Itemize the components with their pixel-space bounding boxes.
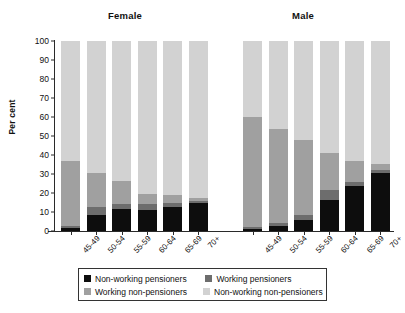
legend-swatch-icon xyxy=(84,275,91,282)
bar-male-50-54 xyxy=(269,41,288,231)
bar-segment xyxy=(87,215,106,231)
x-tick-label: 55-59 xyxy=(131,234,152,255)
bar-male-55-59 xyxy=(294,41,313,231)
bar-segment xyxy=(294,41,313,140)
bar-segment xyxy=(294,220,313,231)
bar-female-70+ xyxy=(189,41,208,231)
bar-female-50-54 xyxy=(87,41,106,231)
x-tick-label: 65-69 xyxy=(182,234,203,255)
bar-segment xyxy=(320,41,339,153)
y-tick-mark xyxy=(51,212,55,213)
bar-male-60-64 xyxy=(320,41,339,231)
y-tick-mark xyxy=(51,98,55,99)
bar-segment xyxy=(138,210,157,231)
y-tick-mark xyxy=(51,174,55,175)
bar-segment xyxy=(112,181,131,205)
y-axis-label: Per cent xyxy=(7,82,17,152)
chart-legend: Non-working pensioners Working pensioner… xyxy=(78,268,327,301)
x-tick-label: 70+ xyxy=(388,234,404,250)
bar-segment xyxy=(87,207,106,215)
legend-item-working-non-pensioners: Working non-pensioners xyxy=(84,287,203,297)
legend-item-non-working-non-pensioners: Non-working non-pensioners xyxy=(203,287,321,297)
legend-label: Non-working pensioners xyxy=(95,274,187,284)
x-tick-label: 55-59 xyxy=(313,234,334,255)
bar-male-45-49 xyxy=(243,41,262,231)
x-tick-mark xyxy=(355,231,356,235)
legend-swatch-icon xyxy=(205,275,212,282)
stacked-bar-chart: Female Male Per cent 0102030405060708090… xyxy=(0,0,405,313)
bar-segment xyxy=(371,41,390,164)
panel-title-female: Female xyxy=(95,10,155,21)
bar-segment xyxy=(269,41,288,129)
y-tick-mark xyxy=(51,231,55,232)
x-tick-mark xyxy=(122,231,123,235)
x-tick-label: 50-54 xyxy=(106,234,127,255)
y-tick-mark xyxy=(51,136,55,137)
bar-female-65-69 xyxy=(163,41,182,231)
bar-segment xyxy=(138,194,157,204)
plot-area: 0102030405060708090100 xyxy=(55,41,392,231)
legend-label: Working pensioners xyxy=(216,274,291,284)
bar-female-60-64 xyxy=(138,41,157,231)
x-tick-mark xyxy=(304,231,305,235)
panel-title-male: Male xyxy=(278,10,328,21)
bar-segment xyxy=(243,41,262,117)
bar-segment xyxy=(87,41,106,173)
bar-segment xyxy=(189,203,208,231)
x-axis-line xyxy=(48,231,394,232)
bar-segment xyxy=(320,200,339,231)
bar-female-45-49 xyxy=(61,41,80,231)
bar-segment xyxy=(320,153,339,190)
x-tick-label: 45-49 xyxy=(262,234,283,255)
x-tick-mark xyxy=(147,231,148,235)
x-tick-label: 65-69 xyxy=(364,234,385,255)
legend-swatch-icon xyxy=(203,288,210,295)
legend-row-2: Working non-pensioners Non-working non-p… xyxy=(84,285,321,298)
x-tick-mark xyxy=(198,231,199,235)
bar-segment xyxy=(138,41,157,194)
bar-segment xyxy=(61,161,80,227)
bar-male-70+ xyxy=(371,41,390,231)
x-tick-mark xyxy=(329,231,330,235)
bar-segment xyxy=(61,41,80,161)
bar-segment xyxy=(345,161,364,182)
bar-segment xyxy=(345,41,364,161)
bar-segment xyxy=(87,173,106,207)
x-tick-label: 45-49 xyxy=(80,234,101,255)
bar-male-65-69 xyxy=(345,41,364,231)
x-tick-label: 70+ xyxy=(206,234,222,250)
bar-segment xyxy=(269,129,288,223)
bar-segment xyxy=(371,173,390,231)
bar-female-55-59 xyxy=(112,41,131,231)
y-tick-mark xyxy=(51,193,55,194)
bar-segment xyxy=(163,207,182,231)
x-tick-label: 60-64 xyxy=(339,234,360,255)
bar-segment xyxy=(163,195,182,204)
x-tick-mark xyxy=(278,231,279,235)
bar-segment xyxy=(294,140,313,215)
x-tick-label: 50-54 xyxy=(288,234,309,255)
bar-segment xyxy=(189,41,208,198)
bar-segment xyxy=(371,164,390,171)
legend-swatch-icon xyxy=(84,288,91,295)
bar-segment xyxy=(112,41,131,181)
y-tick-mark xyxy=(51,117,55,118)
legend-label: Non-working non-pensioners xyxy=(214,287,323,297)
bar-segment xyxy=(112,209,131,231)
x-tick-mark xyxy=(96,231,97,235)
x-tick-mark xyxy=(253,231,254,235)
y-tick-mark xyxy=(51,41,55,42)
bar-segment xyxy=(320,190,339,200)
bar-segment xyxy=(243,117,262,227)
y-tick-mark xyxy=(51,155,55,156)
x-tick-mark xyxy=(173,231,174,235)
legend-item-non-working-pensioners: Non-working pensioners xyxy=(84,274,205,284)
legend-item-working-pensioners: Working pensioners xyxy=(205,274,321,284)
bar-segment xyxy=(163,41,182,195)
x-tick-mark xyxy=(71,231,72,235)
y-tick-mark xyxy=(51,60,55,61)
legend-label: Working non-pensioners xyxy=(95,287,187,297)
x-tick-mark xyxy=(380,231,381,235)
bar-segment xyxy=(345,186,364,231)
y-tick-mark xyxy=(51,79,55,80)
